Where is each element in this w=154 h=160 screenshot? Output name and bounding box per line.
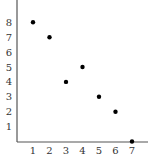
x-tick-label: 1 bbox=[30, 145, 36, 156]
y-tick-labels: 12345678 bbox=[6, 17, 12, 132]
x-tick-label: 3 bbox=[63, 145, 69, 156]
x-tick-label: 5 bbox=[96, 145, 102, 156]
x-tick-label: 2 bbox=[46, 145, 52, 156]
data-point bbox=[130, 139, 134, 143]
y-tick-label: 1 bbox=[6, 121, 12, 132]
data-point bbox=[64, 80, 68, 84]
x-tick-labels: 1234567 bbox=[30, 145, 135, 156]
scatter-chart: 12345678 1234567 bbox=[0, 0, 154, 160]
data-point bbox=[113, 110, 117, 114]
x-tick-label: 7 bbox=[129, 145, 135, 156]
data-point bbox=[80, 65, 84, 69]
y-tick-label: 2 bbox=[6, 106, 12, 117]
data-point bbox=[47, 35, 51, 39]
x-tick-label: 4 bbox=[79, 145, 85, 156]
data-point bbox=[97, 95, 101, 99]
data-point bbox=[31, 20, 35, 24]
y-tick-label: 6 bbox=[6, 47, 12, 58]
y-tick-label: 7 bbox=[6, 32, 12, 43]
y-tick-label: 4 bbox=[6, 76, 12, 87]
y-tick-label: 3 bbox=[6, 91, 12, 102]
y-tick-label: 5 bbox=[6, 62, 12, 73]
x-tick-label: 6 bbox=[112, 145, 118, 156]
data-points bbox=[31, 20, 134, 144]
y-tick-label: 8 bbox=[6, 17, 12, 28]
